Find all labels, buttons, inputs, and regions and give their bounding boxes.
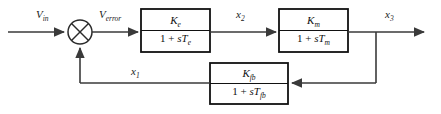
forward-block-m-denominator: 1 + sTm [293, 31, 334, 47]
signal-label-x3: x3 [385, 9, 394, 23]
block-diagram: Vin Verror x2 x3 x1 Ke 1 + sTe Km 1 + sT… [0, 0, 441, 114]
feedback-block-fb-denominator: 1 + sTfb [228, 84, 269, 100]
signal-label-x2: x2 [236, 9, 245, 23]
forward-block-m-numerator: Km [303, 15, 324, 30]
signal-label-vin: Vin [36, 9, 49, 23]
forward-block-e-denominator: 1 + sTe [156, 31, 195, 47]
forward-block-m-label: Km 1 + sTm [279, 9, 348, 52]
signal-label-verror: Verror [99, 9, 121, 23]
forward-block-e-numerator: Ke [166, 15, 185, 30]
feedback-block-fb-numerator: Kfb [238, 68, 259, 83]
signal-label-x1: x1 [131, 66, 140, 80]
feedback-block-fb-label: Kfb 1 + sTfb [210, 63, 288, 104]
forward-block-e-label: Ke 1 + sTe [141, 9, 210, 52]
